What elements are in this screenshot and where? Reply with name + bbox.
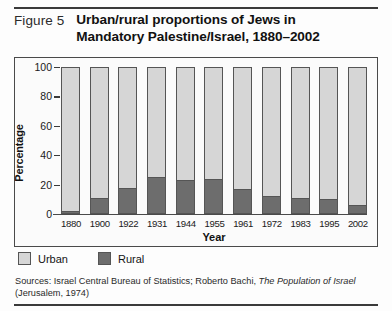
bar-column[interactable] [319, 67, 338, 214]
bar-segment-rural[interactable] [147, 177, 166, 214]
bar-segment-urban[interactable] [61, 67, 80, 211]
bar-column[interactable] [204, 67, 223, 214]
x-axis-tick-label: 1961 [233, 218, 252, 229]
bar-segment-rural[interactable] [262, 196, 281, 214]
bar-segment-rural[interactable] [319, 199, 338, 214]
chart-plot-frame: Percentage 100806040200 1880190019221931… [14, 57, 378, 247]
bar-segment-rural[interactable] [348, 205, 367, 214]
bar-column[interactable] [118, 67, 137, 214]
bar-segment-urban[interactable] [262, 67, 281, 196]
bar-column[interactable] [90, 67, 109, 214]
x-axis-tick-label: 2002 [348, 218, 367, 229]
figure-container: Figure 5 Urban/rural proportions of Jews… [0, 0, 392, 311]
source-prefix: Sources: Israel Central Bureau of Statis… [15, 276, 259, 286]
bar-segment-urban[interactable] [348, 67, 367, 205]
figure-title-line2: Mandatory Palestine/Israel, 1880–2002 [76, 29, 319, 46]
bar-segment-rural[interactable] [90, 198, 109, 214]
top-rule [14, 7, 378, 9]
y-axis-tick-80: 80 [40, 90, 61, 102]
source-note: Sources: Israel Central Bureau of Statis… [15, 275, 377, 300]
bar-segment-urban[interactable] [204, 67, 223, 179]
x-axis-tick-labels: 1880190019221931194419551961197219831995… [61, 218, 367, 229]
legend-item-rural: Rural [98, 252, 144, 265]
y-axis-tick-100: 100 [34, 61, 61, 73]
y-axis-tick-20: 20 [40, 179, 61, 191]
legend-swatch-rural-icon [98, 252, 111, 265]
x-axis-tick-label: 1995 [319, 218, 338, 229]
figure-header: Figure 5 Urban/rural proportions of Jews… [14, 12, 380, 46]
bar-column[interactable] [262, 67, 281, 214]
x-axis-tick-label: 1955 [204, 218, 223, 229]
legend-item-urban: Urban [18, 252, 68, 265]
source-italic-title: The Population of Israel [259, 276, 356, 286]
bar-column[interactable] [176, 67, 195, 214]
x-axis-tick-label: 1880 [61, 218, 80, 229]
bar-segment-urban[interactable] [319, 67, 338, 199]
chart-legend: Urban Rural [18, 252, 174, 265]
bar-segment-urban[interactable] [176, 67, 195, 180]
legend-swatch-urban-icon [18, 252, 31, 265]
bar-segment-rural[interactable] [61, 211, 80, 214]
y-axis-label: Percentage [13, 108, 25, 198]
figure-title-line1: Urban/rural proportions of Jews in [76, 12, 295, 27]
bar-segment-rural[interactable] [204, 179, 223, 214]
bar-column[interactable] [233, 67, 252, 214]
x-axis-tick-label: 1931 [147, 218, 166, 229]
legend-label-rural: Rural [118, 253, 144, 265]
figure-title: Urban/rural proportions of Jews in Manda… [76, 12, 319, 46]
bar-group [61, 67, 367, 214]
bottom-rule [14, 304, 378, 306]
bar-segment-urban[interactable] [90, 67, 109, 198]
y-axis-tick-60: 60 [40, 120, 61, 132]
legend-label-urban: Urban [38, 253, 68, 265]
x-axis-tick-label: 1983 [291, 218, 310, 229]
bar-segment-urban[interactable] [118, 67, 137, 188]
bar-segment-urban[interactable] [147, 67, 166, 177]
x-axis-label: Year [61, 231, 367, 243]
bar-column[interactable] [147, 67, 166, 214]
bar-column[interactable] [291, 67, 310, 214]
bar-column[interactable] [61, 67, 80, 214]
bar-segment-rural[interactable] [176, 180, 195, 214]
x-axis-tick-label: 1900 [90, 218, 109, 229]
bar-segment-urban[interactable] [233, 67, 252, 189]
bar-column[interactable] [348, 67, 367, 214]
bar-segment-rural[interactable] [233, 189, 252, 214]
bar-segment-rural[interactable] [291, 198, 310, 214]
plot-area: 100806040200 [61, 67, 367, 214]
x-axis-tick-label: 1972 [262, 218, 281, 229]
source-suffix: (Jerusalem, 1974) [15, 288, 89, 298]
y-axis-tick-40: 40 [40, 149, 61, 161]
x-axis-tick-label: 1944 [176, 218, 195, 229]
x-axis-tick-label: 1922 [118, 218, 137, 229]
bar-segment-urban[interactable] [291, 67, 310, 198]
bar-segment-rural[interactable] [118, 188, 137, 214]
figure-number: Figure 5 [14, 12, 64, 28]
